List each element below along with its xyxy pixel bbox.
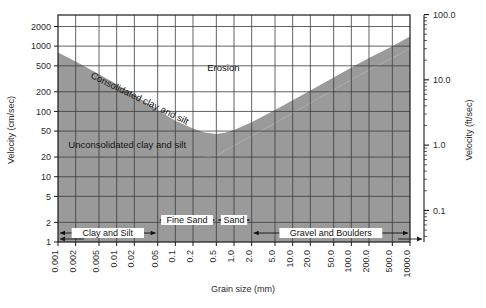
x-tick-label: 0.001 [50, 250, 60, 273]
x-tick-label: 0.5 [208, 250, 218, 263]
y-left-tick-label: 2000 [31, 22, 51, 32]
y-left-tick-label: 50 [41, 126, 51, 136]
x-tick-label: 0.005 [91, 250, 101, 273]
category-fine-sand: Fine Sand [166, 215, 207, 225]
x-tick-label: 0.02 [126, 250, 136, 268]
y-right-tick-label: 0.1 [433, 206, 446, 216]
y-axis-right-title: Velocity (ft/sec) [464, 99, 474, 160]
x-tick-label: 0.1 [167, 250, 177, 263]
y-left-tick-label: 200 [36, 87, 51, 97]
y-axis-left-title: Velocity (cm/sec) [6, 96, 16, 164]
y-left-tick-label: 10 [41, 172, 51, 182]
y-right-tick-label: 100.0 [433, 10, 456, 20]
x-tick-label: 50.0 [326, 250, 336, 268]
category-gravel-and-boulders: Gravel and Boulders [290, 228, 373, 238]
x-tick-label: 1.0 [226, 250, 236, 263]
x-tick-label: 5.0 [267, 250, 277, 263]
hjulstrom-curve-figure: 20001000500200100502010521 100.010.01.00… [0, 0, 486, 308]
x-tick-label: 20.0 [302, 250, 312, 268]
y-left-tick-label: 1000 [31, 41, 51, 51]
x-tick-label: 100.0 [343, 250, 353, 273]
annotation-erosion: Erosion [207, 62, 239, 73]
annotation-unconsolidated-clay-and-silt: Unconsolidated clay and silt [68, 139, 186, 150]
y-left-tick-label: 100 [36, 107, 51, 117]
y-left-tick-label: 500 [36, 61, 51, 71]
y-left-tick-label: 20 [41, 152, 51, 162]
x-tick-label: 0.01 [109, 250, 119, 268]
chart-canvas: 20001000500200100502010521 100.010.01.00… [0, 0, 486, 308]
x-tick-label: 10.0 [285, 250, 295, 268]
category-sand: Sand [223, 215, 244, 225]
y-right-tick-label: 1.0 [433, 140, 446, 150]
y-left-tick-label: 1 [46, 237, 51, 247]
x-axis-title: Grain size (mm) [211, 284, 275, 294]
x-tick-label: 2.0 [244, 250, 254, 263]
x-tick-label: 0.002 [68, 250, 78, 273]
category-clay-and-silt: Clay and Silt [83, 228, 134, 238]
y-left-tick-label: 2 [46, 218, 51, 228]
x-tick-label: 1000.0 [402, 250, 412, 278]
x-tick-label: 0.05 [150, 250, 160, 268]
y-right-tick-label: 10.0 [433, 75, 451, 85]
x-tick-label: 500.0 [384, 250, 394, 273]
x-tick-label: 200.0 [361, 250, 371, 273]
x-tick-label: 0.2 [185, 250, 195, 263]
y-left-tick-label: 5 [46, 192, 51, 202]
